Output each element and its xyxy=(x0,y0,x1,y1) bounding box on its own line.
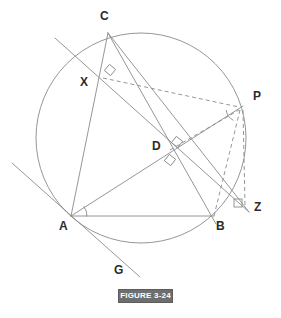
dashed-XP xyxy=(103,78,239,107)
point-label-b: B xyxy=(216,220,225,232)
right-angle-at-D-2 xyxy=(164,154,175,165)
dashed-lines-group xyxy=(103,78,245,216)
solid-lines-group xyxy=(12,33,249,277)
circumscribed-circle xyxy=(36,33,246,243)
figure-3-24-container: CXPDZABG FIGURE 3-24 xyxy=(0,0,281,318)
segment-AD-P xyxy=(71,106,243,216)
geometry-diagram xyxy=(0,0,281,318)
figure-caption-text: FIGURE 3-24 xyxy=(120,292,171,300)
point-label-a: A xyxy=(59,220,68,232)
line-tangent-XG xyxy=(55,38,249,212)
point-label-p: P xyxy=(253,90,261,102)
segment-AC xyxy=(71,33,108,216)
point-label-g: G xyxy=(114,264,123,276)
segment-CXZ xyxy=(108,33,249,212)
point-label-z: Z xyxy=(254,201,261,213)
point-label-c: C xyxy=(100,10,109,22)
figure-caption-bar: FIGURE 3-24 xyxy=(118,289,173,303)
right-angle-at-X xyxy=(104,64,115,75)
point-label-x: X xyxy=(80,76,88,88)
angle-arc-at-P xyxy=(226,110,233,120)
point-label-d: D xyxy=(152,140,161,152)
circle-group xyxy=(36,33,246,243)
line-tangent-AG xyxy=(12,163,140,277)
segment-CB xyxy=(108,33,216,224)
